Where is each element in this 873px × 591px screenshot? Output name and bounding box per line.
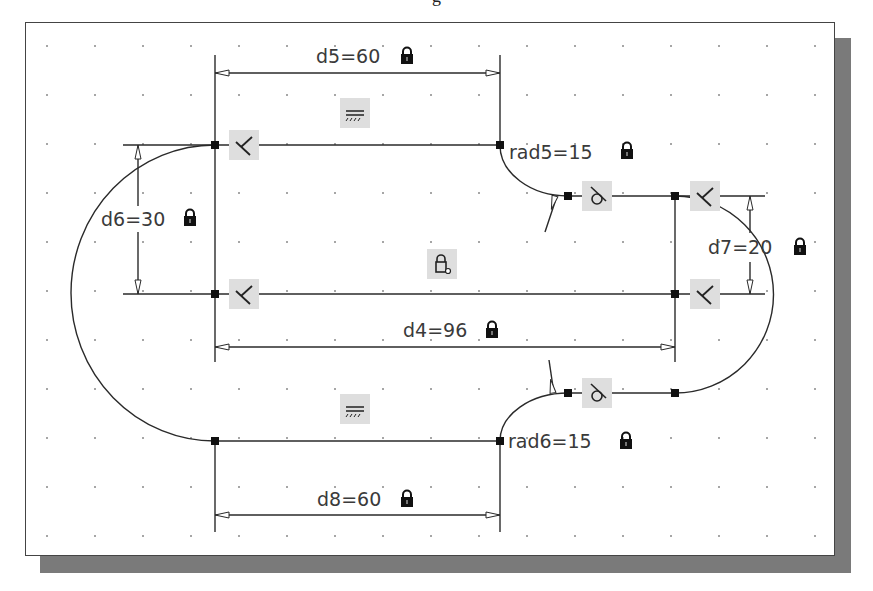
dim-d8-label[interactable]: d8=60 (317, 488, 381, 510)
vertex (211, 290, 219, 298)
dim-rad5-label[interactable]: rad5=15 (509, 141, 593, 163)
sketch-geometry[interactable] (71, 55, 774, 532)
lock-icon (621, 143, 633, 160)
parallel-icon (340, 98, 370, 128)
lock-icon (486, 322, 498, 339)
vertex (496, 141, 504, 149)
vertex (671, 192, 679, 200)
vertex (496, 437, 504, 445)
lock-icon (794, 239, 806, 256)
vertex (211, 437, 219, 445)
left-arc[interactable] (71, 145, 215, 441)
lock-icon (620, 433, 632, 450)
lock-icon (401, 491, 413, 508)
constraint-badges[interactable] (229, 98, 720, 424)
vertex (564, 389, 572, 397)
lock-icon (184, 210, 196, 227)
dim-d7-label[interactable]: d7=20 (708, 236, 772, 258)
vertex (671, 389, 679, 397)
vertex (671, 290, 679, 298)
parallel-icon (340, 394, 370, 424)
lock-icon (401, 48, 413, 65)
tangent-icon (582, 378, 612, 408)
perpendicular-icon (690, 279, 720, 309)
dim-d4-label[interactable]: d4=96 (403, 319, 467, 341)
tangent-icon (582, 181, 612, 211)
vertex (564, 192, 572, 200)
perpendicular-icon (229, 130, 259, 160)
perpendicular-icon (229, 279, 259, 309)
leader-rad5 (545, 202, 555, 232)
vertex (211, 141, 219, 149)
perpendicular-icon (690, 181, 720, 211)
dim-rad6-label[interactable]: rad6=15 (508, 430, 592, 452)
dim-d6-label[interactable]: d6=30 (101, 208, 165, 230)
dim-d5-label[interactable]: d5=60 (316, 45, 380, 67)
fix-lock-icon (427, 249, 457, 279)
